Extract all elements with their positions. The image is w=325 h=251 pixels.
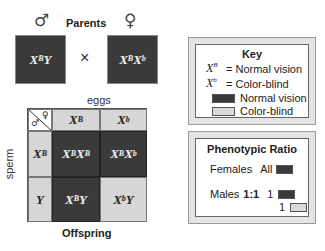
light-swatch <box>212 107 235 116</box>
allele-sup: b <box>133 149 137 158</box>
allele-sup: B <box>213 61 217 69</box>
ratio-panel: Phenotypic Ratio Females All Males 1:1 1… <box>188 131 316 224</box>
allele-base: X <box>65 192 74 208</box>
allele-base: Y <box>126 192 134 208</box>
punnett-square: ♂ ♀ XB Xb XB Y XBXB XBXb XBY XbY <box>27 108 147 222</box>
key-item: XB = Normal vision <box>206 61 308 76</box>
light-swatch <box>290 203 307 212</box>
allele-sup: B <box>119 149 124 158</box>
allele-sup: B <box>38 54 43 63</box>
allele-sup: b <box>142 54 146 63</box>
female-symbol-icon: ♀ <box>42 110 49 120</box>
allele-sup: B <box>74 194 79 203</box>
allele-base: X <box>119 52 128 68</box>
allele-symbol: XB <box>206 61 226 76</box>
allele-base: X <box>69 112 78 128</box>
swatch-label: Color-blind <box>240 105 293 117</box>
allele-sup: b <box>126 115 130 124</box>
allele-sup: B <box>85 149 90 158</box>
allele-base: X <box>133 52 142 68</box>
ratio-title: Phenotypic Ratio <box>196 143 308 155</box>
allele-sup: b <box>122 194 126 203</box>
offspring-cell: XbY <box>100 177 147 222</box>
key-swatch-row: Normal vision <box>212 92 308 104</box>
allele-base: X <box>76 146 85 162</box>
ratio-inner: Phenotypic Ratio Females All Males 1:1 1… <box>195 138 309 217</box>
key-inner: Key XB = Normal vision Xb = Color-blind … <box>195 44 309 118</box>
female-symbol-icon: ♀ <box>124 12 136 29</box>
offspring-cell: XBY <box>52 177 100 222</box>
offspring-cell: XBXB <box>52 131 100 177</box>
allele-base: X <box>117 112 126 128</box>
dark-swatch <box>212 94 235 103</box>
eggs-label: eggs <box>87 94 111 106</box>
females-label: Females <box>210 163 252 175</box>
egg-allele-header: XB <box>52 109 100 131</box>
key-item: Xb = Color-blind <box>206 76 308 91</box>
allele-base: X <box>30 52 39 68</box>
key-swatch-row: Color-blind <box>212 105 308 117</box>
allele-base: Y <box>44 52 52 68</box>
males-label: Males <box>210 188 239 200</box>
allele-sup: B <box>78 115 83 124</box>
males-count: 1 <box>267 188 273 200</box>
males-row-2: 1 <box>279 201 307 213</box>
males-count: 1 <box>279 201 285 213</box>
allele-base: Y <box>79 192 87 208</box>
allele-symbol: Xb <box>206 76 226 91</box>
allele-base: X <box>62 146 71 162</box>
allele-sup: B <box>42 149 47 158</box>
females-value: All <box>260 163 272 175</box>
male-symbol-icon: ♂ <box>34 12 49 29</box>
females-row: Females All <box>210 163 293 175</box>
allele-base: X <box>33 146 42 162</box>
offspring-label: Offspring <box>62 227 112 239</box>
offspring-cell: XBXb <box>100 131 147 177</box>
males-row: Males 1:1 1 <box>210 188 295 200</box>
allele-base: X <box>110 146 119 162</box>
allele-base: X <box>124 146 133 162</box>
sperm-allele-header: XB <box>28 131 52 177</box>
female-parent-genotype: XBXb <box>107 35 158 84</box>
males-ratio: 1:1 <box>243 188 259 200</box>
key-title: Key <box>196 48 308 60</box>
key-panel: Key XB = Normal vision Xb = Color-blind … <box>188 37 316 125</box>
male-symbol-icon: ♂ <box>31 118 39 128</box>
parents-title: Parents <box>66 17 106 29</box>
male-parent-genotype: XBY <box>15 35 66 84</box>
sperm-label: sperm <box>3 149 15 180</box>
corner-cell: ♂ ♀ <box>28 109 52 131</box>
swatch-label: Normal vision <box>240 92 307 104</box>
key-item-text: = Color-blind <box>226 78 289 90</box>
allele-sup: B <box>128 54 133 63</box>
allele-base: Y <box>36 192 44 208</box>
allele-base: X <box>113 192 122 208</box>
egg-allele-header: Xb <box>100 109 147 131</box>
allele-sup: B <box>71 149 76 158</box>
dark-swatch <box>276 165 293 174</box>
cross-symbol: × <box>80 49 89 67</box>
allele-sup: b <box>213 76 217 84</box>
dark-swatch <box>278 190 295 199</box>
key-item-text: = Normal vision <box>226 63 302 75</box>
sperm-allele-header: Y <box>28 177 52 222</box>
